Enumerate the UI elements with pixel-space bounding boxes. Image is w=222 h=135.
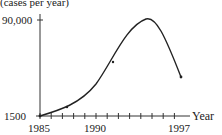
x-tick-label-1990: 1990 [84,122,106,134]
x-tick-label-1997: 1997 [168,122,190,134]
chart-canvas [0,0,222,135]
data-curve [40,19,181,116]
x-axis-label: Year [192,110,214,122]
data-point [112,61,114,63]
x-tick-label-1985: 1985 [28,122,50,134]
y-axis-label: (cases per year) [0,0,69,8]
data-point [66,106,68,108]
data-point [39,115,42,118]
data-point [180,76,183,79]
y-tick-label-max: 90,000 [2,14,32,26]
y-tick-label-min: 1500 [4,110,26,122]
